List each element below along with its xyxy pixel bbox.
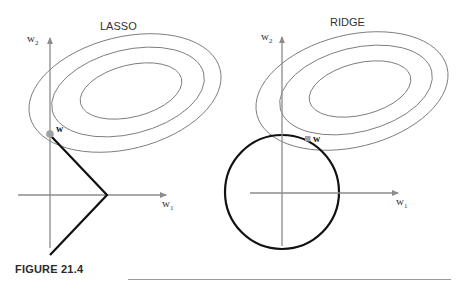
contour-middle: [42, 32, 214, 151]
lasso-w1-label: w1: [162, 197, 174, 212]
ridge-panel: RIDGE w2 w1 w: [225, 13, 460, 249]
ridge-title: RIDGE: [330, 16, 365, 28]
contour-inner: [74, 53, 187, 129]
ridge-contours: [243, 13, 460, 169]
ridge-solution-point: [305, 136, 311, 142]
lasso-contours: [16, 15, 233, 171]
lasso-panel: LASSO w2 w1 w: [16, 15, 233, 255]
lasso-title: LASSO: [100, 20, 137, 32]
contour-outer: [243, 13, 460, 169]
contour-inner: [303, 51, 416, 127]
ridge-w2-label: w2: [261, 30, 273, 45]
ridge-w1-label: w1: [396, 195, 408, 210]
contour-middle: [270, 30, 442, 149]
ridge-point-label: w: [313, 133, 321, 144]
lasso-point-label: w: [56, 123, 64, 134]
lasso-solution-point: [46, 130, 54, 138]
figure-caption: FIGURE 21.4: [15, 263, 84, 275]
lasso-w2-label: w2: [27, 32, 39, 47]
regularization-figure: LASSO w2 w1 w RIDGE w2 w1: [0, 0, 460, 281]
